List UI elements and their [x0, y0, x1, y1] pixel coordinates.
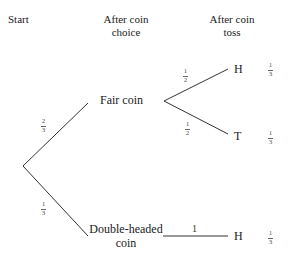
- branch-fair-to-t: [164, 101, 228, 134]
- prob-den: 2: [184, 77, 188, 84]
- prob-start-to-fair: 2 3: [41, 118, 46, 134]
- prob-num: 1: [42, 201, 46, 208]
- header-coin-toss-line1: After coin: [201, 13, 263, 26]
- header-coin-choice: After coin choice: [95, 13, 157, 39]
- branch-start-to-fair: [23, 103, 88, 166]
- header-coin-toss-line2: toss: [201, 26, 263, 39]
- branch-fair-to-h: [164, 69, 228, 101]
- prob-num: 1: [184, 68, 188, 75]
- prob-den: 3: [269, 139, 273, 146]
- header-coin-toss: After coin toss: [201, 13, 263, 39]
- outcome-fair-h-prob: 1 3: [268, 62, 273, 78]
- prob-num: 2: [42, 118, 46, 125]
- prob-den: 3: [42, 127, 46, 134]
- prob-num: 1: [269, 62, 273, 69]
- prob-num: 1: [186, 121, 190, 128]
- prob-num: 1: [269, 130, 273, 137]
- node-double-headed-line1: Double-headed: [89, 222, 163, 236]
- prob-start-to-double: 1 3: [41, 201, 46, 217]
- node-double-headed-coin: Double-headed coin: [89, 222, 163, 250]
- prob-fair-to-t: 1 2: [185, 121, 190, 137]
- header-start: Start: [8, 13, 29, 26]
- prob-den: 3: [42, 210, 46, 217]
- outcome-double-h-prob: 1 3: [268, 230, 273, 246]
- prob-double-to-h: 1: [192, 223, 197, 234]
- prob-den: 3: [269, 71, 273, 78]
- outcome-double-h: H: [234, 229, 243, 244]
- header-coin-choice-line1: After coin: [95, 13, 157, 26]
- outcome-fair-t-prob: 1 3: [268, 130, 273, 146]
- prob-num: 1: [269, 230, 273, 237]
- node-double-headed-line2: coin: [89, 236, 163, 250]
- branch-start-to-double: [23, 166, 88, 236]
- node-fair-coin: Fair coin: [100, 93, 143, 107]
- prob-den: 3: [269, 239, 273, 246]
- prob-fair-to-h: 1 2: [183, 68, 188, 84]
- outcome-fair-t: T: [234, 129, 241, 144]
- prob-den: 2: [186, 130, 190, 137]
- outcome-fair-h: H: [234, 62, 243, 77]
- header-coin-choice-line2: choice: [95, 26, 157, 39]
